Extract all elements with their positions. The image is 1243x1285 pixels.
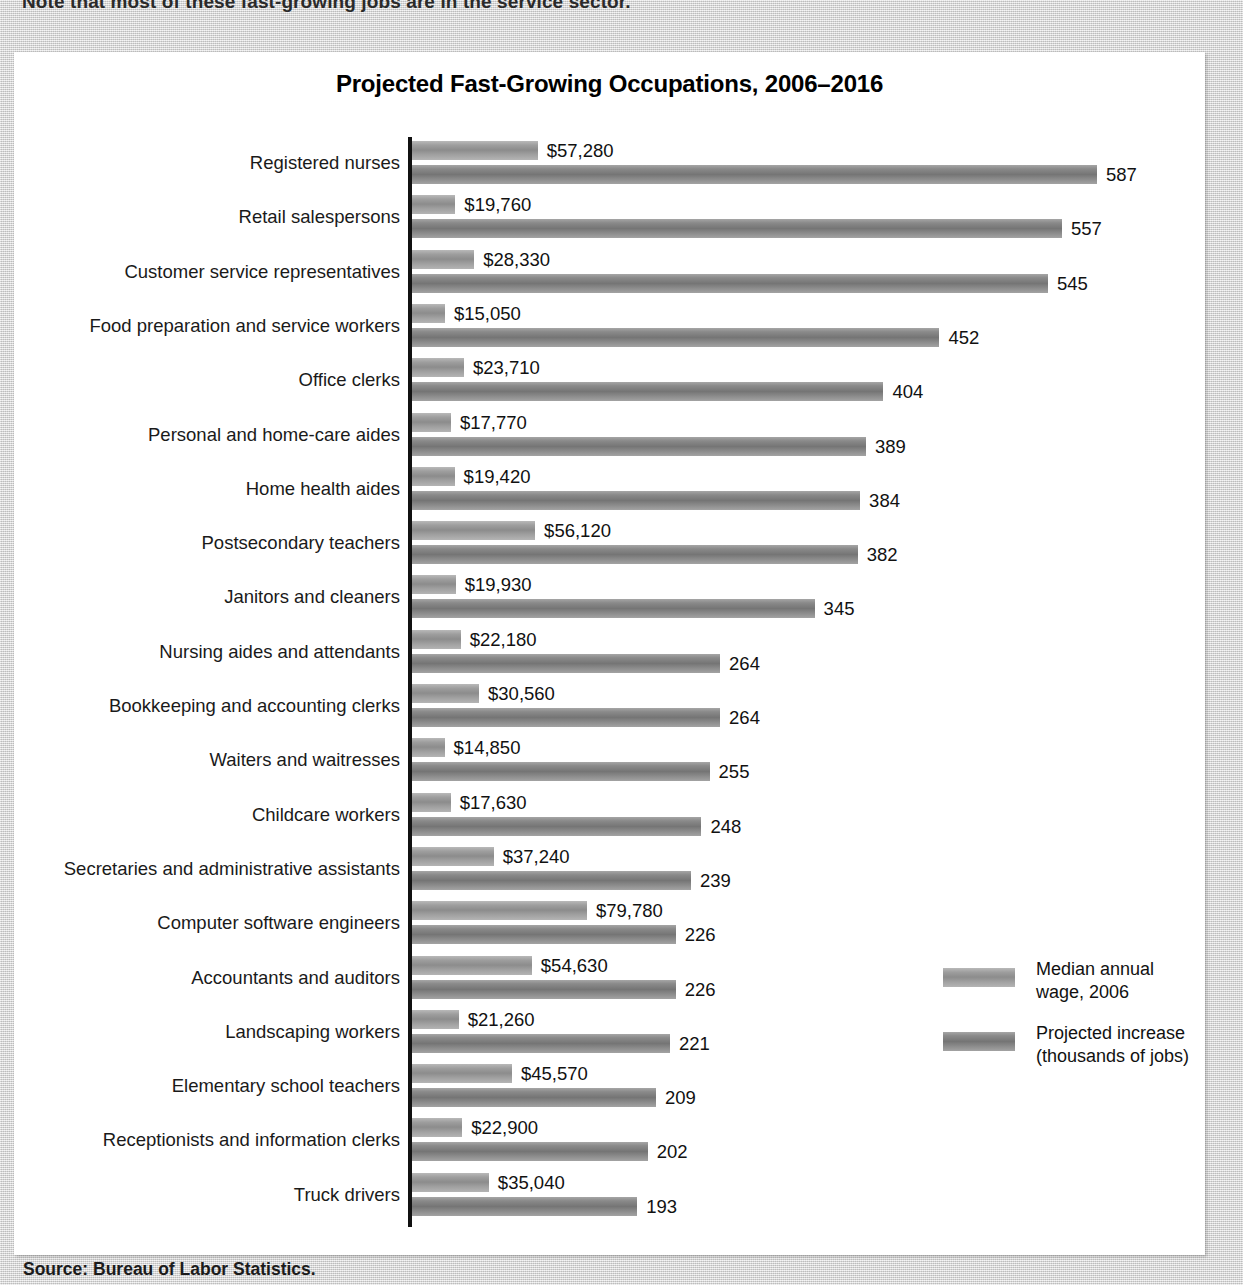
bar-row: Truck drivers$35,040193 [14, 1169, 1205, 1223]
legend-swatch-wage [943, 968, 1015, 987]
wage-value-label: $56,120 [544, 520, 611, 542]
chart-legend: Median annual wage, 2006Projected increa… [943, 960, 1193, 1088]
bar-row: Receptionists and information clerks$22,… [14, 1114, 1205, 1168]
category-label: Food preparation and service workers [89, 315, 400, 337]
bar-row: Secretaries and administrative assistant… [14, 843, 1205, 897]
jobs-bar [412, 708, 720, 727]
jobs-value-label: 209 [665, 1087, 696, 1109]
wage-value-label: $79,780 [596, 900, 663, 922]
bar-row: Home health aides$19,420384 [14, 463, 1205, 517]
bar-row: Computer software engineers$79,780226 [14, 897, 1205, 951]
wage-value-label: $22,180 [470, 629, 537, 651]
wage-value-label: $17,770 [460, 412, 527, 434]
wage-value-label: $54,630 [541, 955, 608, 977]
bar-row: Waiters and waitresses$14,850255 [14, 734, 1205, 788]
chart-panel: Projected Fast-Growing Occupations, 2006… [14, 52, 1205, 1255]
wage-value-label: $35,040 [498, 1172, 565, 1194]
legend-label: Median annual wage, 2006 [1036, 958, 1154, 1004]
jobs-value-label: 202 [657, 1141, 688, 1163]
wage-value-label: $19,930 [465, 574, 532, 596]
wage-value-label: $37,240 [503, 846, 570, 868]
intro-text: Note that most of these fast-growing job… [22, 0, 631, 13]
jobs-bar [412, 980, 676, 999]
jobs-bar [412, 219, 1062, 238]
category-label: Registered nurses [250, 152, 400, 174]
wage-value-label: $28,330 [483, 249, 550, 271]
bar-row: Bookkeeping and accounting clerks$30,560… [14, 680, 1205, 734]
wage-value-label: $23,710 [473, 357, 540, 379]
bar-row: Customer service representatives$28,3305… [14, 246, 1205, 300]
jobs-bar [412, 382, 883, 401]
jobs-value-label: 264 [729, 707, 760, 729]
category-label: Personal and home-care aides [148, 424, 400, 446]
wage-bar [412, 630, 461, 649]
category-label: Janitors and cleaners [224, 586, 400, 608]
category-label: Truck drivers [294, 1184, 400, 1206]
jobs-value-label: 221 [679, 1033, 710, 1055]
jobs-bar [412, 654, 720, 673]
jobs-value-label: 239 [700, 870, 731, 892]
category-label: Computer software engineers [157, 912, 400, 934]
wage-value-label: $22,900 [471, 1117, 538, 1139]
jobs-value-label: 404 [892, 381, 923, 403]
category-label: Retail salespersons [239, 206, 400, 228]
wage-value-label: $19,420 [464, 466, 531, 488]
category-label: Waiters and waitresses [209, 749, 400, 771]
wage-value-label: $21,260 [468, 1009, 535, 1031]
wage-bar [412, 413, 451, 432]
jobs-bar [412, 925, 676, 944]
jobs-value-label: 248 [710, 816, 741, 838]
wage-value-label: $45,570 [521, 1063, 588, 1085]
jobs-value-label: 587 [1106, 164, 1137, 186]
wage-bar [412, 738, 445, 757]
wage-bar [412, 956, 532, 975]
category-label: Customer service representatives [124, 261, 400, 283]
wage-bar [412, 141, 538, 160]
jobs-bar [412, 545, 858, 564]
category-label: Elementary school teachers [172, 1075, 400, 1097]
category-label: Accountants and auditors [191, 967, 400, 989]
legend-swatch-jobs [943, 1032, 1015, 1051]
wage-bar [412, 195, 455, 214]
category-label: Childcare workers [252, 804, 400, 826]
category-label: Office clerks [299, 369, 400, 391]
legend-item: Median annual wage, 2006 [943, 960, 1193, 1024]
wage-bar [412, 684, 479, 703]
category-label: Receptionists and information clerks [103, 1129, 400, 1151]
wage-bar [412, 1118, 462, 1137]
legend-label: Projected increase (thousands of jobs) [1036, 1022, 1189, 1068]
category-label: Bookkeeping and accounting clerks [109, 695, 400, 717]
jobs-value-label: 384 [869, 490, 900, 512]
jobs-bar [412, 165, 1097, 184]
bar-row: Office clerks$23,710404 [14, 354, 1205, 408]
bar-row: Childcare workers$17,630248 [14, 789, 1205, 843]
bar-row: Food preparation and service workers$15,… [14, 300, 1205, 354]
jobs-value-label: 382 [867, 544, 898, 566]
wage-bar [412, 304, 445, 323]
category-label: Postsecondary teachers [202, 532, 400, 554]
jobs-bar [412, 437, 866, 456]
category-label: Secretaries and administrative assistant… [64, 858, 400, 880]
wage-bar [412, 358, 464, 377]
wage-bar [412, 467, 455, 486]
jobs-value-label: 452 [948, 327, 979, 349]
wage-value-label: $15,050 [454, 303, 521, 325]
bar-row: Postsecondary teachers$56,120382 [14, 517, 1205, 571]
jobs-bar [412, 274, 1048, 293]
jobs-value-label: 264 [729, 653, 760, 675]
wage-value-label: $19,760 [464, 194, 531, 216]
jobs-value-label: 255 [719, 761, 750, 783]
jobs-bar [412, 762, 710, 781]
bar-row: Janitors and cleaners$19,930345 [14, 571, 1205, 625]
jobs-value-label: 345 [824, 598, 855, 620]
wage-bar [412, 1010, 459, 1029]
wage-bar [412, 1064, 512, 1083]
wage-bar [412, 1173, 489, 1192]
bar-row: Retail salespersons$19,760557 [14, 191, 1205, 245]
jobs-bar [412, 328, 939, 347]
wage-value-label: $30,560 [488, 683, 555, 705]
jobs-value-label: 557 [1071, 218, 1102, 240]
wage-bar [412, 521, 535, 540]
wage-value-label: $17,630 [460, 792, 527, 814]
bar-row: Personal and home-care aides$17,770389 [14, 409, 1205, 463]
